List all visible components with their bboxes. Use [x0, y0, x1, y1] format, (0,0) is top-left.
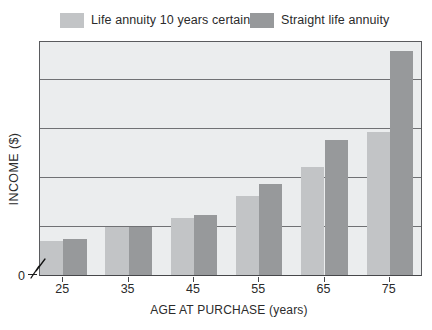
legend-item-straight-life-annuity: Straight life annuity: [250, 11, 389, 29]
x-axis-title: AGE AT PURCHASE (years): [115, 303, 343, 317]
bar-age-25-straight-life: [63, 239, 86, 275]
plot-area: [39, 41, 422, 276]
x-tick-label-65: 65: [302, 282, 346, 296]
bar-age-75-straight-life: [390, 51, 413, 275]
gridline-y-3: [40, 128, 421, 129]
bar-age-45-straight-life: [194, 215, 217, 276]
legend-swatch-life-annuity-10-years-certain: [60, 13, 84, 28]
legend-swatch-straight-life-annuity: [250, 13, 274, 28]
bar-age-35-straight-life: [129, 227, 152, 275]
x-tick-label-75: 75: [367, 282, 411, 296]
annuity-income-bar-chart: Life annuity 10 years certain Straight l…: [0, 0, 432, 330]
x-tick-label-45: 45: [171, 282, 215, 296]
gridline-y-1: [40, 226, 421, 227]
bar-age-65-ten-years-certain: [301, 167, 324, 275]
gridline-y-4: [40, 79, 421, 80]
bar-age-55-straight-life: [259, 184, 282, 275]
bar-age-55-ten-years-certain: [236, 196, 259, 275]
y-axis-title: INCOME ($): [7, 128, 21, 210]
x-tick-label-25: 25: [40, 282, 84, 296]
x-tick-label-55: 55: [236, 282, 280, 296]
gridline-y-2: [40, 177, 421, 178]
y-zero-label: 0: [18, 269, 25, 283]
legend-label-straight-life-annuity: Straight life annuity: [281, 13, 389, 27]
axis-break-icon: [30, 258, 49, 279]
bar-age-45-ten-years-certain: [171, 218, 194, 275]
legend-item-life-annuity-10-years-certain: Life annuity 10 years certain: [60, 11, 250, 29]
x-tick-label-35: 35: [106, 282, 150, 296]
bar-age-75-ten-years-certain: [367, 132, 390, 275]
bar-age-65-straight-life: [325, 140, 348, 275]
legend-label-life-annuity-10-years-certain: Life annuity 10 years certain: [91, 13, 250, 27]
bar-age-35-ten-years-certain: [105, 227, 128, 275]
